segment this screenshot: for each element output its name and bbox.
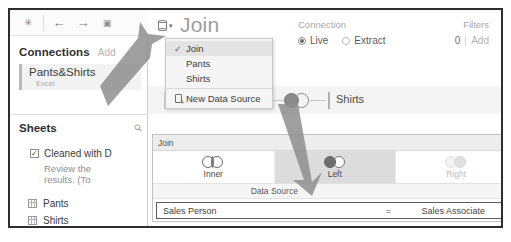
canvas-link-right (310, 100, 326, 101)
sidebar-item-pants-label: Pants (43, 198, 69, 209)
sheets-header: Sheets ⚲ (19, 122, 141, 134)
canvas-node-marker (328, 92, 330, 109)
toolbar-divider (43, 15, 44, 31)
radio-live[interactable]: Live (298, 35, 328, 46)
datasource-dropdown-menu: ✓ Join Pants Shirts New Data Source (165, 38, 273, 109)
filters-row: 0 Add (455, 35, 489, 46)
filters-label: Filters (455, 19, 489, 30)
menu-item-shirts[interactable]: Shirts (166, 71, 272, 86)
save-icon[interactable]: ▣ (95, 12, 119, 34)
join-column-header-left: Data Source (153, 184, 396, 198)
add-connection-button[interactable]: Add (98, 47, 116, 58)
menu-separator (166, 88, 272, 89)
join-column-header-right: Shirts (396, 184, 504, 198)
join-clause-operator[interactable]: = (376, 206, 402, 216)
add-filter-button[interactable]: Add (471, 35, 489, 46)
connection-label: Connection (298, 19, 385, 30)
sidebar-item-shirts-label: Shirts (43, 215, 69, 226)
right-join-venn-icon (445, 156, 467, 168)
database-icon (158, 20, 167, 31)
sidebar-item-shirts[interactable]: Shirts (28, 215, 69, 226)
app-window-frame: ✳ ← → ▣ Connections Add Pants&Shirts Exc… (8, 8, 503, 228)
checkbox-checked-icon[interactable]: ✓ (30, 149, 39, 158)
radio-live-indicator[interactable] (298, 37, 306, 45)
menu-item-shirts-label: Shirts (186, 73, 210, 84)
join-column-headers: Data Source Shirts (153, 184, 503, 199)
join-type-inner-label: Inner (204, 169, 223, 179)
sidebar-item-pants[interactable]: Pants (28, 198, 69, 209)
join-type-right-label: Right (446, 169, 466, 179)
connection-block: Connection Live Extract (298, 19, 385, 46)
left-join-venn-icon (324, 156, 346, 168)
join-type-group: Inner Left Right (153, 151, 503, 184)
sheets-title: Sheets (19, 122, 57, 134)
join-dialog: Join × Inner Left (152, 134, 503, 222)
data-interpreter-icon[interactable]: ✳ (16, 12, 40, 34)
radio-extract-indicator[interactable] (342, 37, 350, 45)
join-dialog-title: Join (158, 138, 174, 148)
connection-radio-group: Live Extract (298, 35, 385, 46)
filters-count: 0 (455, 35, 461, 46)
join-dialog-titlebar: Join × (153, 135, 503, 151)
back-arrow-icon[interactable]: ← (47, 12, 71, 34)
search-icon[interactable]: ⚲ (131, 122, 144, 135)
join-type-left-label: Left (328, 169, 342, 179)
new-data-source-icon (170, 94, 186, 103)
join-type-left[interactable]: Left (275, 151, 397, 183)
join-clause-left-field[interactable]: Sales Person (157, 206, 376, 216)
connection-item-name: Pants&Shirts (29, 66, 141, 79)
chevron-down-icon[interactable]: ▾ (169, 21, 173, 31)
connection-item[interactable]: Pants&Shirts Excel (19, 64, 141, 90)
pane-divider (10, 114, 148, 115)
connections-header: Connections Add (19, 46, 116, 58)
screenshot-root: ✳ ← → ▣ Connections Add Pants&Shirts Exc… (0, 0, 511, 242)
left-join-venn-icon[interactable] (284, 93, 310, 108)
sheet-checkbox-row[interactable]: ✓ Cleaned with D (30, 148, 112, 159)
left-pane: ✳ ← → ▣ Connections Add Pants&Shirts Exc… (10, 10, 148, 226)
radio-live-label: Live (310, 35, 328, 46)
filters-block: Filters 0 Add (455, 19, 489, 46)
datasource-selector[interactable]: ▾ (158, 20, 173, 31)
radio-extract-label: Extract (354, 35, 385, 46)
connection-item-type: Excel (36, 79, 141, 89)
toolbar: ✳ ← → ▣ (10, 10, 148, 36)
sheet-note-text: Review the results. (To (44, 163, 124, 185)
menu-item-join-label: Join (186, 43, 203, 54)
join-type-right[interactable]: Right (396, 151, 503, 183)
page-title: Join (180, 13, 219, 37)
table-grid-icon (28, 216, 37, 225)
radio-extract[interactable]: Extract (342, 35, 385, 46)
join-clause-right-field[interactable]: Sales Associate (402, 206, 504, 216)
join-type-inner[interactable]: Inner (153, 151, 275, 183)
check-icon: ✓ (170, 44, 186, 54)
menu-item-new-data-source-label: New Data Source (186, 93, 260, 104)
inner-join-venn-icon (202, 156, 224, 168)
filters-divider (465, 36, 466, 46)
menu-item-pants-label: Pants (186, 58, 210, 69)
menu-item-new-data-source[interactable]: New Data Source (166, 91, 272, 106)
canvas-node-shirts[interactable]: Shirts (336, 93, 364, 105)
join-clause-row[interactable]: Sales Person = Sales Associate (156, 202, 503, 219)
menu-item-pants[interactable]: Pants (166, 56, 272, 71)
forward-arrow-icon[interactable]: → (71, 12, 95, 34)
table-grid-icon (28, 199, 37, 208)
sheet-checkbox-label: Cleaned with D (44, 148, 112, 159)
connections-title: Connections (19, 46, 90, 58)
menu-item-join[interactable]: ✓ Join (166, 41, 272, 56)
